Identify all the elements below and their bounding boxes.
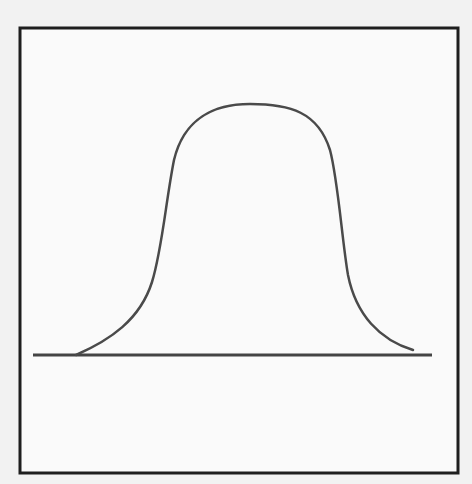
diagram-canvas — [0, 0, 472, 484]
bell-curve-diagram — [0, 0, 472, 484]
diagram-frame — [20, 28, 458, 473]
